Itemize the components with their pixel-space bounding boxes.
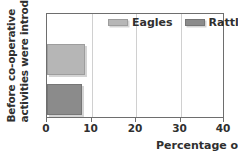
- legend: Eagles Rattlers: [108, 17, 238, 28]
- tick-label-30: 30: [172, 123, 187, 134]
- tick-label-40: 40: [216, 123, 231, 134]
- legend-item-rattlers: Rattlers: [185, 17, 238, 28]
- bar-eagles: [47, 44, 85, 75]
- eagles-swatch-icon: [108, 19, 128, 26]
- y-axis-label-line-2: activities were introduced: [19, 0, 30, 122]
- y-axis-label-line-1: Before co-operative: [6, 8, 17, 122]
- bar-chart-figure: Before co-operative activities were intr…: [0, 0, 238, 157]
- legend-label-eagles: Eagles: [132, 17, 173, 28]
- bar-rattlers: [47, 84, 82, 115]
- tick-label-10: 10: [83, 123, 98, 134]
- x-axis-title: Percentage o: [156, 140, 238, 151]
- tick-label-0: 0: [42, 123, 49, 134]
- legend-label-rattlers: Rattlers: [209, 17, 238, 28]
- rattlers-swatch-icon: [185, 19, 205, 26]
- legend-item-eagles: Eagles: [108, 17, 173, 28]
- x-axis: 0 10 20 30 40: [46, 118, 224, 138]
- gridline-30: [181, 14, 182, 117]
- gridline-10: [92, 14, 93, 117]
- gridline-20: [136, 14, 137, 117]
- tick-label-20: 20: [128, 123, 143, 134]
- y-axis-label: Before co-operative activities were intr…: [0, 0, 46, 128]
